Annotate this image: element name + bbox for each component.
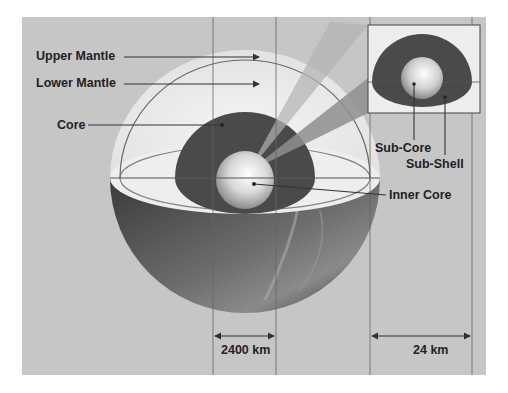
- label-scale-24km: 24 km: [413, 343, 448, 357]
- label-sub-shell: Sub-Shell: [406, 157, 464, 171]
- label-lower-mantle: Lower Mantle: [36, 76, 116, 90]
- earth-structure-diagram: Upper Mantle Lower Mantle Core Inner Cor…: [0, 0, 508, 393]
- label-core: Core: [57, 118, 85, 132]
- inset-sub-core: [401, 57, 443, 99]
- inner-core: [216, 151, 274, 209]
- label-scale-2400km: 2400 km: [221, 343, 270, 357]
- label-inner-core: Inner Core: [389, 188, 452, 202]
- label-sub-core: Sub-Core: [375, 141, 431, 155]
- label-upper-mantle: Upper Mantle: [36, 49, 115, 63]
